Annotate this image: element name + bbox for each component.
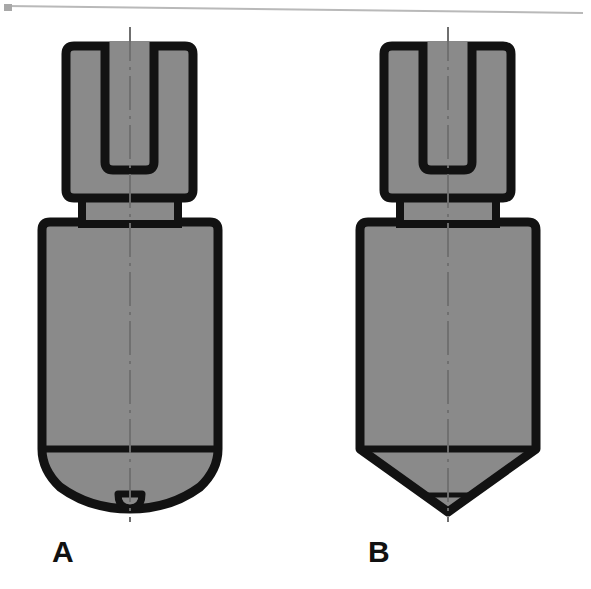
- figure-a: A: [42, 27, 218, 568]
- technical-diagram-canvas: A B: [0, 0, 591, 589]
- figure-label-b: B: [368, 535, 390, 568]
- figure-label-a: A: [52, 535, 74, 568]
